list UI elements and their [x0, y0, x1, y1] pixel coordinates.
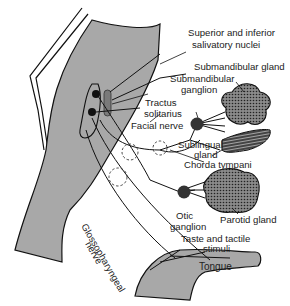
- label-facial-nerve: Facial nerve: [131, 121, 183, 131]
- label-submandibular-ganglion: Submandibular: [170, 74, 235, 84]
- label-tongue: Tongue: [199, 262, 232, 272]
- label-salivatory-nuclei-2: salivatory nuclei: [192, 40, 260, 50]
- label-submandibular-ganglion-2: ganglion: [181, 85, 217, 95]
- parotid-gland: [204, 169, 259, 213]
- sublingual-gland: [222, 129, 270, 152]
- label-otic-ganglion-2: ganglion: [170, 222, 206, 232]
- otic-ganglion: [178, 186, 191, 199]
- label-salivatory-nuclei: Superior and inferior: [188, 28, 275, 38]
- label-chorda-tympani: Chorda tympani: [184, 160, 252, 170]
- label-tractus-solitarius-2: solitarius: [144, 109, 182, 119]
- label-taste-stimuli-2: stimuli: [203, 244, 230, 254]
- label-submandibular-gland: Submandibular gland: [194, 62, 285, 72]
- submandibular-ganglion: [191, 118, 204, 131]
- salivary-innervation-diagram: Superior and inferior salivatory nuclei …: [0, 0, 290, 306]
- submandibular-gland: [222, 84, 271, 125]
- label-otic-ganglion: Otic: [176, 211, 193, 221]
- label-parotid-gland: Parotid gland: [220, 215, 277, 225]
- label-tractus-solitarius: Tractus: [145, 98, 177, 108]
